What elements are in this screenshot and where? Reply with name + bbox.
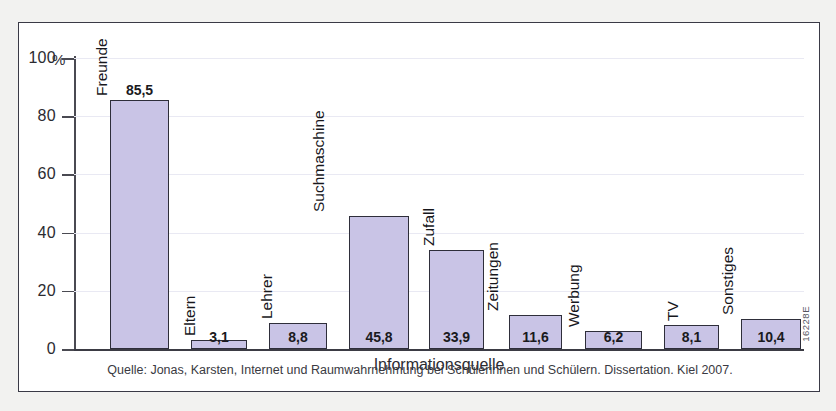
y-axis-tick-label: 20 (16, 282, 56, 300)
bar-suchmaschine: 45,8 (349, 216, 409, 349)
y-axis-tick (62, 349, 74, 351)
bar-category-label: Zufall (420, 208, 438, 246)
y-axis-tick (62, 233, 74, 235)
y-axis-tick-label: 40 (16, 224, 56, 242)
gridline (74, 58, 804, 59)
bar-freunde: 85,5 (110, 100, 169, 349)
bar-value-label: 3,1 (209, 329, 228, 345)
bar-category-label: Werbung (564, 264, 582, 327)
gridline (74, 174, 804, 175)
bar-zufall: 33,9 (429, 250, 484, 349)
bar-zeitungen: 11,6 (509, 315, 562, 349)
bar-category-label: TV (664, 302, 682, 322)
bar-category-label: Lehrer (258, 275, 276, 320)
bar-value-label: 8,8 (288, 329, 307, 345)
y-axis-tick (62, 291, 74, 293)
gridline (74, 233, 804, 234)
bar-value-label: 10,4 (757, 329, 784, 345)
y-axis-tick-label: 100 (16, 49, 56, 67)
bar-value-label: 45,8 (365, 329, 392, 345)
figure-code-label: 16228E (800, 306, 811, 342)
y-axis-tick (62, 58, 74, 60)
y-axis-tick-label: 80 (16, 107, 56, 125)
chart-figure: % 020406080100 85,5Freunde3,1Eltern8,8Le… (18, 22, 820, 392)
bar-value-label: 8,1 (682, 329, 701, 345)
bar-value-label: 33,9 (443, 329, 470, 345)
gridline (74, 116, 804, 117)
plot-area: 020406080100 85,5Freunde3,1Eltern8,8Lehr… (74, 56, 804, 351)
bar-lehrer: 8,8 (269, 323, 327, 349)
bar-werbung: 6,2 (585, 331, 642, 349)
bar-value-label: 6,2 (604, 329, 623, 345)
bar-value-label: 11,6 (522, 329, 548, 345)
y-axis-tick-label: 60 (16, 165, 56, 183)
bar-category-label: Freunde (93, 38, 111, 96)
bar-value-label: 85,5 (126, 82, 153, 98)
x-axis-line (71, 349, 804, 351)
source-note: Quelle: Jonas, Karsten, Internet und Rau… (19, 363, 821, 377)
bar-eltern: 3,1 (191, 340, 247, 349)
bar-category-label: Zeitungen (483, 242, 501, 311)
bar-category-label: Eltern (181, 295, 199, 336)
y-axis-tick-label: 0 (16, 340, 56, 358)
y-axis-tick (62, 116, 74, 118)
bar-category-label: Sonstiges (719, 247, 737, 315)
bar-sonstiges: 10,4 (741, 319, 801, 349)
y-axis-line (74, 56, 76, 351)
bar-tv: 8,1 (664, 325, 719, 349)
bar-category-label: Suchmaschine (310, 110, 328, 212)
y-axis-tick (62, 174, 74, 176)
